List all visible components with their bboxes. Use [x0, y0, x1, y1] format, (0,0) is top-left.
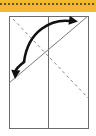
paper-fold-instruction-diagram [0, 0, 96, 136]
diagram-page [0, 0, 96, 136]
diagram-graphic [0, 0, 96, 136]
